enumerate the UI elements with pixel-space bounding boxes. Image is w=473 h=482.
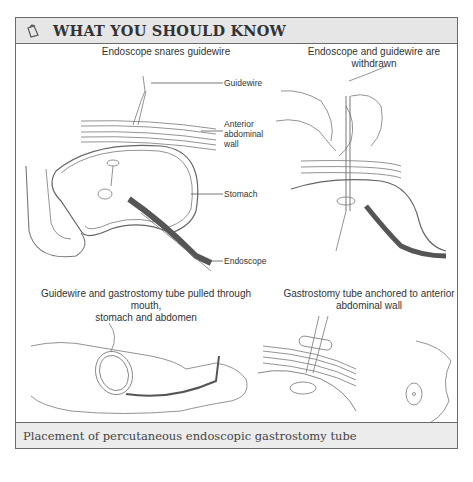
label-anterior-line1: Anterior <box>224 119 263 129</box>
figure-caption-bar: Placement of percutaneous endoscopic gas… <box>16 422 457 448</box>
panel-3-title-line1: Guidewire and gastrostomy tube pulled th… <box>26 288 266 312</box>
label-anterior-abdominal-wall: Anterior abdominal wall <box>224 119 263 149</box>
label-anterior-line3: wall <box>224 139 263 149</box>
label-endoscope: Endoscope <box>224 256 267 266</box>
info-box: WHAT YOU SHOULD KNOW <box>15 17 458 449</box>
label-anterior-line2: abdominal <box>224 129 263 139</box>
label-guidewire: Guidewire <box>224 78 262 88</box>
figure-caption: Placement of percutaneous endoscopic gas… <box>23 429 357 443</box>
panel-3-title-line2: stomach and abdomen <box>26 312 266 324</box>
label-stomach: Stomach <box>224 189 258 199</box>
panel-4-title-line1: Gastrostomy tube anchored to anterior <box>274 288 464 300</box>
panel-2-title: Endoscope and guidewire are withdrawn <box>284 46 464 70</box>
panel-4-title-line2: abdominal wall <box>274 300 464 312</box>
panel-3-title: Guidewire and gastrostomy tube pulled th… <box>26 288 266 324</box>
panel-4-title: Gastrostomy tube anchored to anterior ab… <box>274 288 464 312</box>
panel-1-title: Endoscope snares guidewire <box>76 46 256 58</box>
